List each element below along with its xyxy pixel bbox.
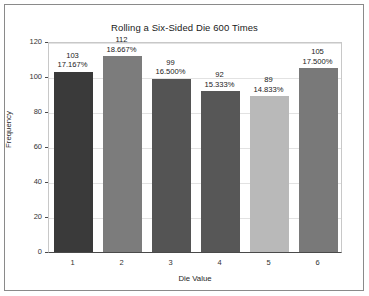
x-axis-tick-label: 1 xyxy=(53,258,93,267)
x-axis-tick-label: 6 xyxy=(298,258,338,267)
bar-data-label: 8914.833% xyxy=(239,75,299,94)
chart-figure: Rolling a Six-Sided Die 600 Times Freque… xyxy=(0,0,369,296)
y-axis-tick-label: 20 xyxy=(2,212,42,221)
bar xyxy=(201,91,239,252)
bar xyxy=(103,56,141,252)
bar xyxy=(152,79,190,252)
bar-percent-label: 17.167% xyxy=(43,60,103,70)
bar xyxy=(299,68,337,252)
bar-percent-label: 17.500% xyxy=(288,57,348,67)
bar xyxy=(54,72,92,252)
y-axis-tick-label: 0 xyxy=(2,247,42,256)
y-axis-tick-label: 60 xyxy=(2,142,42,151)
x-axis-label: Die Value xyxy=(48,274,342,283)
y-axis-tick-label: 100 xyxy=(2,72,42,81)
bar-percent-label: 18.667% xyxy=(92,45,152,55)
bar-data-label: 11218.667% xyxy=(92,35,152,54)
x-axis-tick-label: 2 xyxy=(102,258,142,267)
x-axis-tick-label: 3 xyxy=(151,258,191,267)
bar-count-label: 89 xyxy=(239,75,299,85)
chart-title: Rolling a Six-Sided Die 600 Times xyxy=(0,22,369,33)
bar-count-label: 112 xyxy=(92,35,152,45)
bar-percent-label: 14.833% xyxy=(239,85,299,95)
bar-data-label: 10517.500% xyxy=(288,47,348,66)
x-axis-tick-label: 5 xyxy=(249,258,289,267)
bar xyxy=(250,96,288,252)
y-axis-tick-label: 80 xyxy=(2,107,42,116)
x-axis-tick-label: 4 xyxy=(200,258,240,267)
bar-count-label: 99 xyxy=(141,58,201,68)
bar-count-label: 105 xyxy=(288,47,348,57)
y-axis-tick-label: 40 xyxy=(2,177,42,186)
y-axis-tick-label: 120 xyxy=(2,37,42,46)
